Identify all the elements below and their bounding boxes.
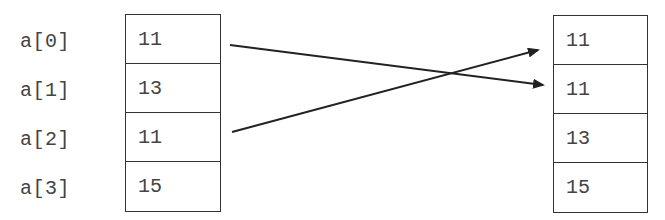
mapping-arrows — [0, 0, 665, 220]
arrow-a0-to-right1 — [230, 45, 543, 85]
arrow-a2-to-right0 — [232, 50, 538, 132]
